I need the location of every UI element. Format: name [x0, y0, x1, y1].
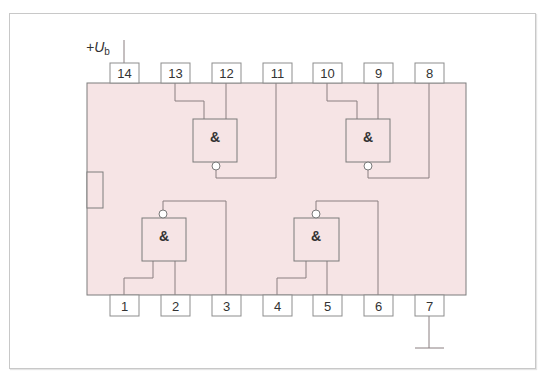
pin-number: 10 [320, 66, 334, 81]
gate-2-symbol: & [363, 129, 373, 145]
pin-1: 1 [110, 295, 139, 316]
pin-4: 4 [263, 295, 292, 316]
pin-10: 10 [313, 63, 342, 83]
gate-4-inverter-bubble [312, 210, 320, 218]
pin-2: 2 [161, 295, 190, 316]
pin-number: 14 [117, 66, 131, 81]
pin-13: 13 [161, 63, 190, 83]
pin-14: 14 [110, 63, 139, 83]
pin-number: 4 [274, 299, 281, 314]
pin-11: 11 [263, 63, 292, 83]
bottom-pin-row: 1 2 3 4 5 6 7 [110, 295, 444, 316]
supply-label: +Ub [86, 39, 110, 57]
supply-label-subscript: b [104, 46, 110, 57]
pin-8: 8 [415, 63, 444, 83]
pin-number: 2 [172, 299, 179, 314]
top-pin-row: 14 13 12 11 10 9 8 [110, 63, 444, 83]
gate-2-inverter-bubble [364, 162, 372, 170]
pin-number: 13 [168, 66, 182, 81]
gate-1: & [193, 119, 237, 170]
pin-number: 7 [426, 299, 433, 314]
supply-label-main: +U [86, 39, 105, 55]
gate-3: & [142, 210, 186, 261]
pin-number: 5 [324, 299, 331, 314]
gate-3-symbol: & [159, 228, 169, 244]
pin-number: 3 [223, 299, 230, 314]
gate-1-symbol: & [210, 129, 220, 145]
ic-pinout-diagram: +Ub & & & & 14 13 12 11 [0, 0, 544, 381]
gate-4: & [294, 210, 339, 261]
pin-5: 5 [313, 295, 342, 316]
gate-1-inverter-bubble [212, 162, 220, 170]
gate-4-symbol: & [311, 228, 321, 244]
pin-number: 6 [375, 299, 382, 314]
gate-3-inverter-bubble [159, 210, 167, 218]
pin-number: 1 [121, 299, 128, 314]
ic-notch [87, 172, 103, 208]
gate-2: & [346, 119, 390, 170]
pin-3: 3 [212, 295, 241, 316]
pin-number: 11 [271, 66, 285, 81]
pin-12: 12 [212, 63, 241, 83]
pin-number: 8 [426, 66, 433, 81]
pin-9: 9 [364, 63, 393, 83]
pin-6: 6 [364, 295, 393, 316]
pin-7: 7 [415, 295, 444, 316]
pin-number: 9 [375, 66, 382, 81]
pin-number: 12 [219, 66, 233, 81]
